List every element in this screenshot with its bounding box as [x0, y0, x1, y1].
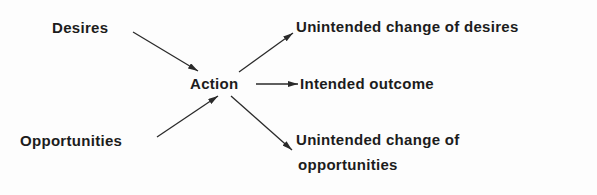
node-unintended-change-of-opportunities-line1: Unintended change of: [296, 131, 460, 149]
node-action: Action: [190, 75, 238, 93]
arrow-action-to-unintended-desires: [239, 33, 293, 72]
arrow-desires-to-action: [133, 32, 198, 71]
node-intended-outcome: Intended outcome: [300, 75, 434, 93]
node-unintended-change-of-desires: Unintended change of desires: [296, 18, 519, 36]
node-unintended-change-of-opportunities-line2: opportunities: [298, 156, 398, 174]
arrow-opportunities-to-action: [157, 96, 218, 137]
arrow-action-to-unintended-opportunities: [231, 96, 292, 150]
node-opportunities: Opportunities: [20, 132, 122, 150]
node-desires: Desires: [52, 19, 108, 37]
